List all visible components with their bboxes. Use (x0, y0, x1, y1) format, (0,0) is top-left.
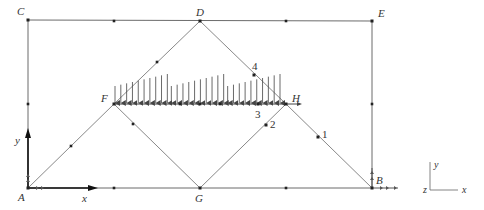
node-F (113, 103, 116, 106)
node-label-F: F (100, 92, 108, 104)
support-b-x-icon (394, 186, 397, 190)
mid-node (113, 20, 116, 23)
mid-node (219, 103, 222, 106)
distributed-load (115, 74, 302, 106)
node-label-E: E (377, 7, 385, 19)
mid-node (199, 103, 202, 106)
member-FG (114, 104, 200, 188)
mid-node (371, 103, 374, 106)
mid-node (113, 187, 116, 190)
point-label-1: 1 (322, 128, 328, 140)
node-label-G: G (195, 192, 203, 204)
point-label-3: 3 (255, 108, 261, 120)
mid-node (132, 123, 135, 126)
node-E (371, 20, 374, 23)
member-DH (200, 21, 286, 104)
mid-node (27, 103, 30, 106)
truss-diagram: xy ABCDEFGH1234 xyz (0, 0, 484, 210)
x-arrowhead-icon (88, 185, 98, 191)
support-b-x-icon (386, 186, 389, 190)
node-label-A: A (17, 191, 25, 203)
support-b-y-icon (370, 177, 374, 180)
node-C (27, 19, 30, 22)
node-B (371, 187, 374, 190)
point-3 (257, 103, 260, 106)
triad-y-label: y (433, 159, 439, 170)
support-a-x-icon (41, 186, 44, 190)
mid-node (70, 145, 73, 148)
support-b-y-icon (370, 171, 374, 174)
support-a-x-icon (36, 186, 39, 190)
global-y-label: y (14, 134, 20, 146)
support-a-y-icon (26, 174, 30, 177)
mid-node (285, 187, 288, 190)
nodes (27, 19, 374, 190)
node-H (285, 103, 288, 106)
triad-z-label: z (422, 184, 427, 195)
supports (26, 168, 398, 190)
mid-node (156, 61, 159, 64)
triad-x-label: x (461, 184, 467, 195)
node-G (199, 187, 202, 190)
point-label-4: 4 (252, 60, 258, 72)
node-D (199, 20, 202, 23)
node-label-C: C (17, 5, 25, 17)
member-HB (286, 104, 372, 188)
node-A (27, 187, 30, 190)
global-x-label: x (81, 192, 87, 204)
point-4 (253, 74, 256, 77)
y-arrowhead-icon (25, 128, 31, 138)
mid-node (179, 103, 182, 106)
support-b-x-icon (380, 186, 383, 190)
node-label-D: D (195, 6, 204, 18)
point-2 (265, 124, 268, 127)
point-label-2: 2 (270, 118, 276, 130)
diagram-canvas: xy ABCDEFGH1234 xyz (0, 0, 484, 210)
member-GH (200, 104, 286, 188)
node-label-B: B (376, 174, 383, 186)
support-a-y-icon (26, 179, 30, 182)
global-axes: xy (14, 128, 98, 204)
node-label-H: H (291, 92, 301, 104)
coordinate-triad: xyz (422, 159, 467, 195)
point-1 (317, 136, 320, 139)
mid-node (285, 20, 288, 23)
